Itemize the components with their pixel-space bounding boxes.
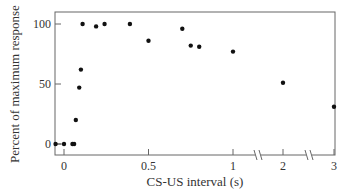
data-point <box>74 118 78 122</box>
data-point <box>77 85 81 89</box>
y-axis-label: Percent of maximum response <box>7 5 22 163</box>
data-point <box>231 49 235 53</box>
x-tick-label: 1 <box>230 159 236 173</box>
data-point <box>332 105 336 109</box>
data-point <box>53 142 57 146</box>
y-tick-label: 50 <box>39 77 51 91</box>
data-point <box>146 39 150 43</box>
x-tick-label: 0 <box>61 159 67 173</box>
chart-canvas: 050100 00.5123 CS-US interval (s) Percen… <box>0 0 352 191</box>
data-point <box>94 24 98 28</box>
x-axis-label: CS-US interval (s) <box>147 174 244 189</box>
y-tick-label: 100 <box>33 17 51 31</box>
data-point <box>72 142 76 146</box>
data-point <box>128 22 132 26</box>
x-axis: 00.5123 <box>61 149 337 173</box>
scatter-chart: 050100 00.5123 CS-US interval (s) Percen… <box>0 0 352 191</box>
x-tick-label: 2 <box>280 159 286 173</box>
data-point <box>281 81 285 85</box>
data-point <box>102 22 106 26</box>
x-tick-label: 0.5 <box>141 159 156 173</box>
y-tick-label: 0 <box>45 137 51 151</box>
data-points <box>53 22 336 146</box>
data-point <box>79 67 83 71</box>
data-point <box>197 45 201 49</box>
y-axis: 050100 <box>33 17 61 151</box>
data-point <box>80 22 84 26</box>
plot-frame <box>55 12 335 155</box>
x-tick-label: 3 <box>331 159 337 173</box>
data-point <box>62 142 66 146</box>
data-point <box>180 27 184 31</box>
data-point <box>189 43 193 47</box>
